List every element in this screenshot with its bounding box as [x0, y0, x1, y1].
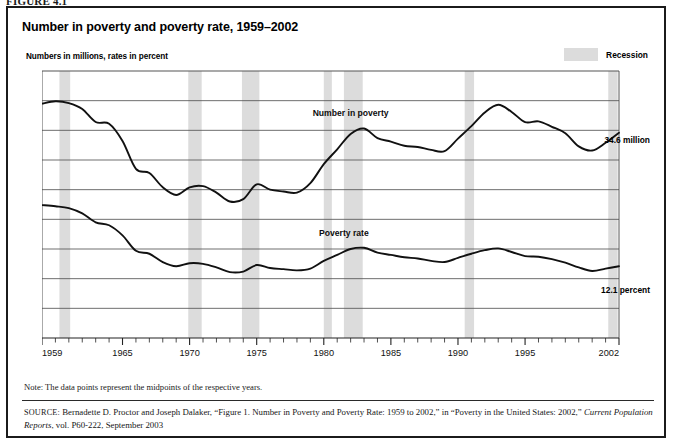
axis-units-subtitle: Numbers in millions, rates in percent	[26, 52, 168, 61]
x-axis-tick-label: 1990	[448, 348, 468, 358]
end-label-poverty-rate: 12.1 percent	[601, 285, 650, 295]
x-axis-tick-label: 1980	[314, 348, 334, 358]
x-axis-tick-label: 1970	[179, 348, 199, 358]
x-axis-tick-label: 1995	[515, 348, 535, 358]
series-annotation: Poverty rate	[319, 228, 369, 238]
divider	[22, 400, 654, 401]
source-citation: SOURCE: Bernadette D. Proctor and Joseph…	[24, 406, 654, 432]
page-title: Number in poverty and poverty rate, 1959…	[22, 20, 298, 34]
recession-band	[242, 71, 259, 338]
end-label-number-in-poverty: 34.6 million	[604, 135, 650, 145]
legend-label-recession: Recession	[606, 50, 648, 60]
x-axis-tick-label: 2002	[599, 348, 619, 358]
source-line-1: Bernadette D. Proctor and Joseph Dalaker…	[60, 407, 582, 417]
source-line-2: , vol. P60-222, September 2003	[51, 420, 163, 430]
chart-plot-area: 0510152025303540451959196519701975198019…	[42, 70, 620, 360]
recession-band	[188, 71, 201, 338]
legend: Recession	[564, 48, 648, 61]
source-prefix: SOURCE:	[24, 408, 60, 417]
recession-band	[59, 71, 70, 338]
poverty-line-chart: 0510152025303540451959196519701975198019…	[42, 70, 620, 360]
x-axis-tick-label: 1959	[42, 348, 62, 358]
recession-band	[465, 71, 474, 338]
x-axis-tick-label: 1975	[246, 348, 266, 358]
figure-container: Number in poverty and poverty rate, 1959…	[6, 6, 666, 438]
series-annotation: Number in poverty	[313, 108, 389, 118]
x-axis-tick-label: 1965	[112, 348, 132, 358]
chart-note: Note: The data points represent the midp…	[24, 382, 262, 392]
recession-swatch-icon	[564, 48, 598, 61]
x-axis-tick-label: 1985	[381, 348, 401, 358]
recession-band	[608, 71, 617, 338]
